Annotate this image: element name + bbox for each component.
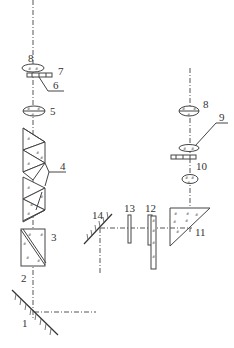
label-1: 1 bbox=[22, 317, 28, 329]
wedge-plate-12: # # # # 12 bbox=[145, 202, 156, 269]
optical-system-diagram: 1 2 # # # # # 3 # # # # # # # # bbox=[0, 0, 234, 348]
lens-9: # # 9 bbox=[179, 111, 228, 152]
label-12: 12 bbox=[145, 202, 156, 214]
label-8-right: 8 bbox=[203, 98, 209, 110]
label-7: 7 bbox=[58, 65, 64, 77]
label-13: 13 bbox=[124, 202, 136, 214]
lens-small-right: # # # bbox=[182, 175, 198, 186]
label-4: 4 bbox=[60, 160, 66, 172]
label-8-left: 8 bbox=[28, 52, 34, 64]
label-6: 6 bbox=[53, 79, 59, 91]
prism-block-3: # # # # # 3 bbox=[21, 229, 57, 266]
leader-4: 4 bbox=[45, 160, 66, 186]
prism-group-4-lower: # # # # bbox=[23, 177, 45, 222]
label-9: 9 bbox=[219, 111, 225, 123]
lens-5: # # # 5 bbox=[23, 105, 56, 117]
label-11: 11 bbox=[195, 226, 206, 238]
label-3: 3 bbox=[51, 231, 57, 243]
lens-8: # # # 8 bbox=[179, 98, 209, 117]
prism-11: # # # # # # 11 bbox=[170, 208, 210, 246]
mirror-14: 14 bbox=[84, 209, 112, 275]
prism-group-4-upper: # # # # bbox=[23, 128, 45, 180]
label-14: 14 bbox=[92, 209, 104, 221]
plate-10: 10 bbox=[171, 155, 208, 172]
label-2: 2 bbox=[21, 272, 27, 284]
label-5: 5 bbox=[50, 105, 56, 117]
plate-13: 13 bbox=[124, 202, 136, 243]
label-10: 10 bbox=[196, 160, 208, 172]
